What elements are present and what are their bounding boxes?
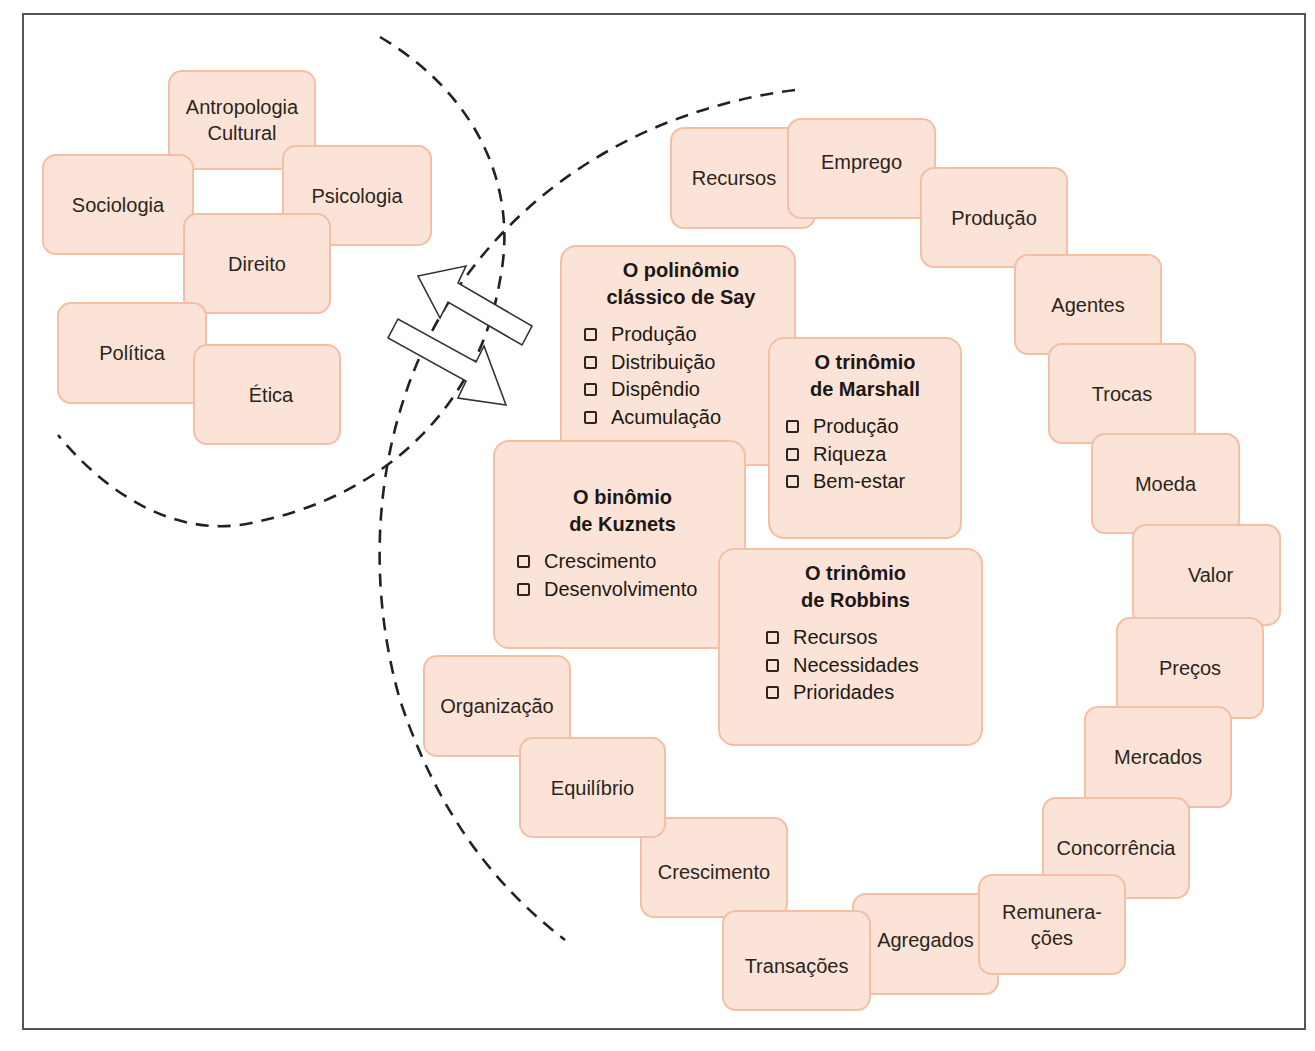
- box-label: Agregados: [877, 927, 974, 953]
- checkbox-icon: [766, 631, 779, 644]
- group-title: O trinômio de Marshall: [786, 349, 944, 403]
- group-list: Crescimento Desenvolvimento: [517, 548, 728, 603]
- list-item-label: Riqueza: [813, 441, 886, 469]
- box-label: Sociologia: [72, 192, 164, 218]
- group-title: O polinômio clássico de Say: [584, 257, 778, 311]
- list-item-label: Prioridades: [793, 679, 894, 707]
- box-label: Trocas: [1092, 381, 1152, 407]
- box-label: Psicologia: [311, 183, 402, 209]
- box-label: Organização: [440, 693, 553, 719]
- group-robbins: O trinômio de Robbins Recursos Necessida…: [718, 548, 983, 746]
- list-item-label: Produção: [611, 321, 697, 349]
- group-title: O binômio de Kuznets: [517, 484, 728, 538]
- box-label: Remunera- ções: [1002, 899, 1102, 951]
- list-item: Distribuição: [584, 349, 778, 377]
- list-item: Dispêndio: [584, 376, 778, 404]
- list-item-label: Recursos: [793, 624, 877, 652]
- ring-item-moeda: Moeda: [1091, 433, 1240, 534]
- checkbox-icon: [584, 328, 597, 341]
- list-item: Produção: [786, 413, 944, 441]
- group-title: O trinômio de Robbins: [766, 560, 945, 614]
- list-item: Riqueza: [786, 441, 944, 469]
- box-label: Crescimento: [658, 859, 770, 885]
- ring-item-emprego: Emprego: [787, 118, 936, 219]
- list-item: Bem-estar: [786, 468, 944, 496]
- ring-item-equilibrio: Equilíbrio: [519, 737, 666, 838]
- list-item: Necessidades: [766, 652, 965, 680]
- box-direito: Direito: [183, 213, 331, 314]
- box-label: Moeda: [1135, 471, 1196, 497]
- ring-item-valor: Valor: [1132, 524, 1281, 626]
- ring-item-trocas: Trocas: [1048, 343, 1196, 444]
- box-sociologia: Sociologia: [42, 154, 194, 255]
- box-label: Direito: [228, 251, 286, 277]
- checkbox-icon: [517, 583, 530, 596]
- checkbox-icon: [786, 475, 799, 488]
- list-item: Recursos: [766, 624, 965, 652]
- box-label: Emprego: [821, 149, 902, 175]
- list-item-label: Crescimento: [544, 548, 656, 576]
- checkbox-icon: [786, 448, 799, 461]
- checkbox-icon: [766, 659, 779, 672]
- list-item-label: Acumulação: [611, 404, 721, 432]
- box-etica: Ética: [193, 344, 341, 445]
- list-item: Crescimento: [517, 548, 728, 576]
- ring-item-transacoes: Transações: [722, 910, 871, 1011]
- checkbox-icon: [584, 411, 597, 424]
- list-item: Desenvolvimento: [517, 576, 728, 604]
- checkbox-icon: [517, 555, 530, 568]
- group-list: Produção Riqueza Bem-estar: [786, 413, 944, 496]
- group-say: O polinômio clássico de Say Produção Dis…: [560, 245, 796, 466]
- list-item: Prioridades: [766, 679, 965, 707]
- box-label: Valor: [1188, 562, 1233, 588]
- group-list: Recursos Necessidades Prioridades: [766, 624, 965, 707]
- list-item: Acumulação: [584, 404, 778, 432]
- ring-item-mercados: Mercados: [1084, 706, 1232, 808]
- box-label: Ética: [249, 382, 293, 408]
- box-politica: Política: [57, 302, 207, 404]
- list-item: Produção: [584, 321, 778, 349]
- ring-item-precos: Preços: [1116, 617, 1264, 719]
- list-item-label: Necessidades: [793, 652, 919, 680]
- box-label: Produção: [951, 205, 1037, 231]
- group-marshall: O trinômio de Marshall Produção Riqueza …: [768, 337, 962, 539]
- checkbox-icon: [766, 686, 779, 699]
- list-item-label: Desenvolvimento: [544, 576, 697, 604]
- list-item-label: Dispêndio: [611, 376, 700, 404]
- checkbox-icon: [786, 420, 799, 433]
- ring-item-remuneracoes: Remunera- ções: [978, 874, 1126, 975]
- checkbox-icon: [584, 383, 597, 396]
- box-label: Equilíbrio: [551, 775, 634, 801]
- box-label: Recursos: [692, 165, 776, 191]
- box-label: Antropologia Cultural: [186, 94, 298, 146]
- list-item-label: Distribuição: [611, 349, 715, 377]
- ring-item-agregados: Agregados: [852, 893, 999, 995]
- box-label: Transações: [745, 953, 849, 979]
- box-label: Concorrência: [1057, 835, 1176, 861]
- box-label: Mercados: [1114, 744, 1202, 770]
- group-list: Produção Distribuição Dispêndio Acumulaç…: [584, 321, 778, 431]
- box-label: Agentes: [1051, 292, 1124, 318]
- group-kuznets: O binômio de Kuznets Crescimento Desenvo…: [493, 440, 746, 649]
- list-item-label: Bem-estar: [813, 468, 905, 496]
- ring-item-agentes: Agentes: [1014, 254, 1162, 355]
- box-label: Preços: [1159, 655, 1221, 681]
- ring-item-producao: Produção: [920, 167, 1068, 268]
- box-label: Política: [99, 340, 165, 366]
- list-item-label: Produção: [813, 413, 899, 441]
- checkbox-icon: [584, 356, 597, 369]
